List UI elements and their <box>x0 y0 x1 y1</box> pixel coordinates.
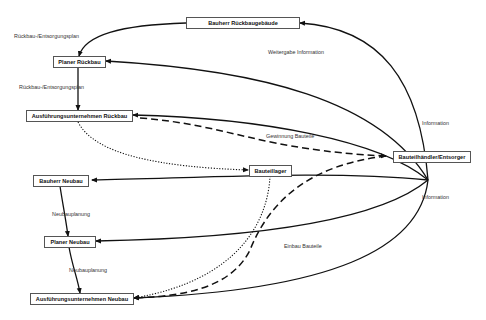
node-haendler: Bauteilhändler/Entsorger <box>393 151 471 163</box>
node-bauherr-neubau: Bauherr Neubau <box>33 175 89 187</box>
node-bauteillager: Bauteillager <box>249 165 292 177</box>
label-neubauplanung-1: Neubauplanung <box>52 211 90 217</box>
node-bauherr-rueckbau: Bauherr Rückbaugebäude <box>186 17 300 29</box>
label-einbau-bauteile: Einbau Bauteile <box>284 243 322 249</box>
label-gewinnung-bauteile: Gewinnung Bauteile <box>266 133 314 139</box>
edge-haendler-to-planer-neubau <box>96 180 428 241</box>
edge-ausf-rueckbau-to-lager <box>78 122 248 170</box>
label-information-top: Information <box>422 120 449 126</box>
edge-haendler-to-planer-rueckbau <box>106 61 428 180</box>
node-ausf-neubau: Ausführungsunternehmen Neubau <box>30 293 134 305</box>
edge-gewinnung-bauteile <box>140 118 386 156</box>
node-ausf-rueckbau: Ausführungsunternehmen Rückbau <box>26 110 133 122</box>
label-weitergabe-information: Weitergabe Information <box>268 49 324 55</box>
label-information-bottom: Information <box>422 194 449 200</box>
node-planer-neubau: Planer Neubau <box>44 236 96 248</box>
node-planer-rueckbau: Planer Rückbau <box>53 56 106 68</box>
label-rueckbau-plan-1: Rückbau-/Entsorgungsplan <box>14 33 79 39</box>
edge-bauherr-to-planer-rueckbau <box>79 23 186 56</box>
label-rueckbau-plan-2: Rückbau-/Entsorgungsplan <box>19 84 84 90</box>
label-neubauplanung-2: Neubauplanung <box>69 267 107 273</box>
edge-haendler-to-ausf-neubau <box>134 180 428 298</box>
